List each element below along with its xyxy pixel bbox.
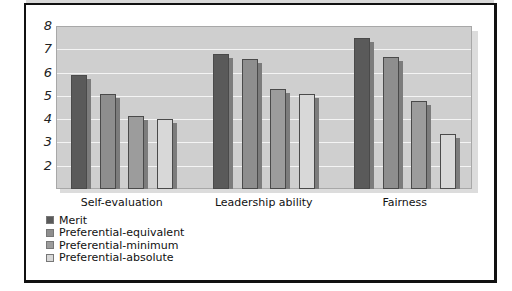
legend-label: Preferential-equivalent — [59, 226, 184, 239]
y-tick-label: 5 — [36, 89, 52, 102]
bar-shadow — [427, 105, 431, 189]
y-tick-label: 8 — [36, 19, 52, 32]
bar-preferential-absolute — [299, 94, 315, 189]
bar-preferential-minimum — [128, 116, 144, 189]
bar-preferential-equivalent — [383, 57, 399, 189]
bar-preferential-absolute — [440, 134, 456, 189]
y-tick-label: 3 — [36, 135, 52, 148]
bar-merit — [354, 38, 370, 189]
bar-shadow — [144, 120, 148, 189]
legend-item: Preferential-minimum — [46, 239, 184, 252]
bar-merit — [213, 54, 229, 189]
bar-shadow — [399, 61, 403, 189]
bar-shadow — [456, 138, 460, 189]
legend-item: Merit — [46, 214, 184, 227]
legend-label: Preferential-minimum — [59, 239, 179, 252]
legend-label: Preferential-absolute — [59, 251, 174, 264]
y-tick-label: 2 — [36, 159, 52, 172]
bar-preferential-minimum — [270, 89, 286, 189]
bar-preferential-equivalent — [100, 94, 116, 189]
legend-item: Preferential-equivalent — [46, 227, 184, 240]
legend: MeritPreferential-equivalentPreferential… — [46, 214, 184, 264]
bar-shadow — [87, 79, 91, 189]
legend-swatch — [46, 229, 54, 237]
bar-shadow — [229, 58, 233, 189]
bar-shadow — [286, 93, 290, 189]
bar-merit — [71, 75, 87, 189]
bar-shadow — [173, 123, 177, 189]
bar-shadow — [258, 63, 262, 189]
bar-shadow — [116, 98, 120, 189]
gridline — [57, 49, 471, 50]
category-label: Fairness — [345, 196, 465, 209]
category-label: Self-evaluation — [62, 196, 182, 209]
y-tick-label: 4 — [36, 112, 52, 125]
bar-preferential-equivalent — [242, 59, 258, 189]
bar-preferential-minimum — [411, 101, 427, 189]
bar-shadow — [315, 98, 319, 189]
legend-label: Merit — [59, 214, 87, 227]
gridline — [57, 73, 471, 74]
legend-swatch — [46, 241, 54, 249]
legend-swatch — [46, 216, 54, 224]
bar-preferential-absolute — [157, 119, 173, 189]
legend-item: Preferential-absolute — [46, 252, 184, 265]
bar-shadow — [370, 42, 374, 189]
y-tick-label: 7 — [36, 42, 52, 55]
legend-swatch — [46, 254, 54, 262]
category-label: Leadership ability — [204, 196, 324, 209]
y-tick-label: 6 — [36, 66, 52, 79]
